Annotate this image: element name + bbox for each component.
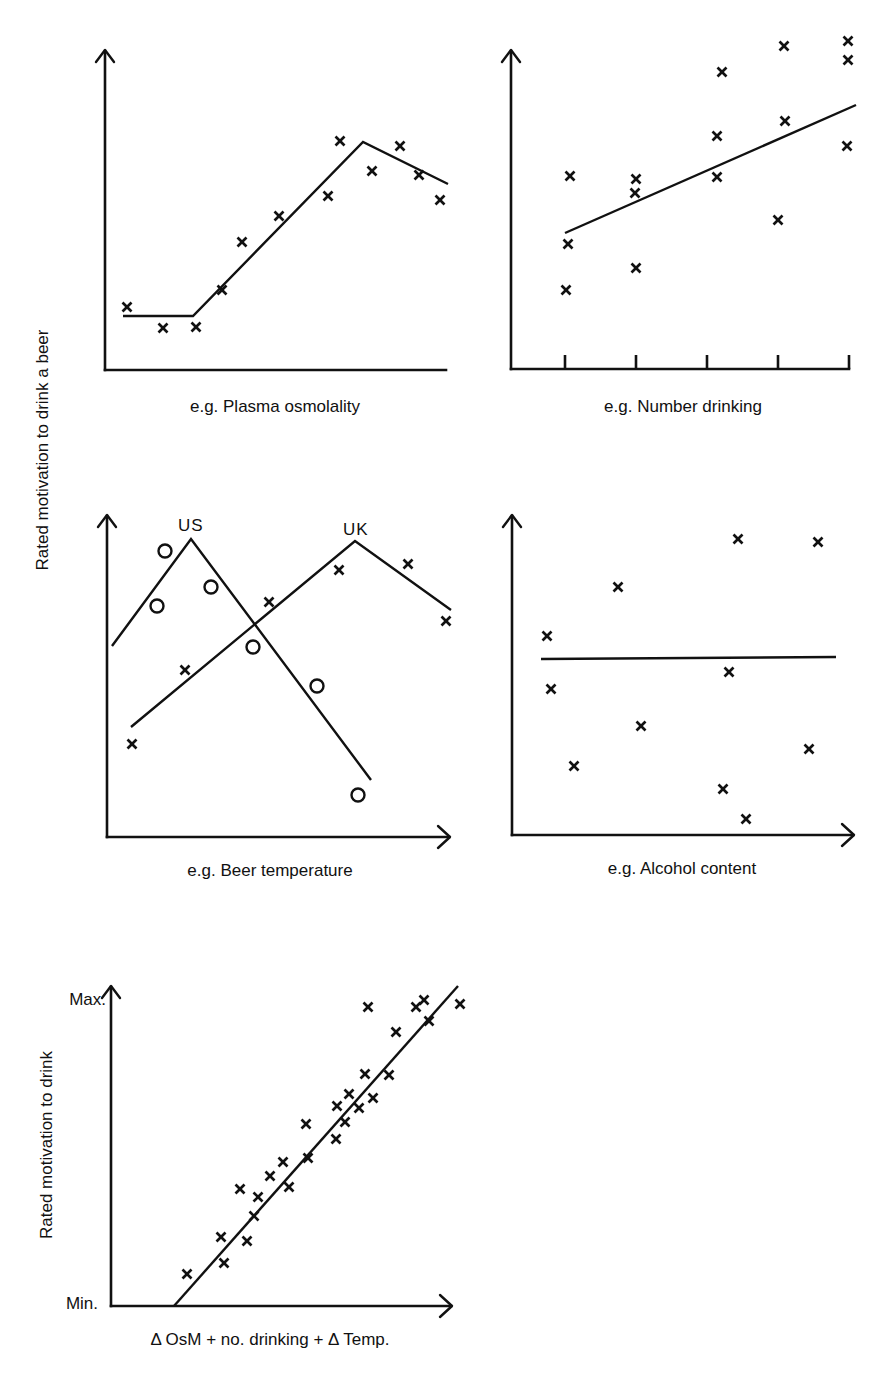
- x-marker-icon: [335, 566, 344, 575]
- x-marker-icon: [279, 1158, 288, 1167]
- x-marker-icon: [566, 172, 575, 181]
- panel-beer-temperature: USUKe.g. Beer temperature: [98, 515, 451, 880]
- x-marker-icon: [442, 617, 451, 626]
- x-marker-icon: [632, 264, 641, 273]
- x-marker-icon: [614, 583, 623, 592]
- x-marker-icon: [324, 192, 333, 201]
- x-marker-icon: [220, 1259, 229, 1268]
- x-marker-icon: [713, 132, 722, 141]
- x-marker-icon: [333, 1102, 342, 1111]
- x-marker-icon: [742, 815, 751, 824]
- x-marker-icon: [632, 175, 641, 184]
- x-marker-icon: [364, 1003, 373, 1012]
- series-label: UK: [343, 520, 369, 539]
- circle-marker-icon: [205, 581, 218, 594]
- x-marker-icon: [217, 1233, 226, 1242]
- x-marker-icon: [719, 785, 728, 794]
- circle-marker-icon: [352, 789, 365, 802]
- x-marker-icon: [192, 323, 201, 332]
- x-marker-icon: [562, 286, 571, 295]
- circle-marker-icon: [247, 641, 260, 654]
- x-marker-icon: [123, 303, 132, 312]
- x-marker-icon: [243, 1237, 252, 1246]
- fit-line: [131, 541, 451, 727]
- x-marker-icon: [404, 560, 413, 569]
- x-marker-icon: [183, 1270, 192, 1279]
- x-marker-icon: [844, 56, 853, 65]
- x-marker-icon: [814, 538, 823, 547]
- y-axis-label: Rated motivation to drink: [37, 1050, 56, 1239]
- x-marker-icon: [254, 1193, 263, 1202]
- x-marker-icon: [718, 68, 727, 77]
- panel-alcohol-content: e.g. Alcohol content: [503, 515, 854, 878]
- x-marker-icon: [456, 1000, 465, 1009]
- y-tick-max: Max.: [69, 990, 106, 1009]
- series-uk: UK: [128, 520, 452, 749]
- x-marker-icon: [368, 167, 377, 176]
- panel-number-drinking: e.g. Number drinking: [502, 37, 856, 417]
- figure-canvas: e.g. Plasma osmolalitye.g. Number drinki…: [0, 0, 891, 1375]
- fit-line: [174, 986, 458, 1306]
- x-marker-icon: [420, 996, 429, 1005]
- x-marker-icon: [805, 745, 814, 754]
- circle-marker-icon: [159, 545, 172, 558]
- x-marker-icon: [369, 1094, 378, 1103]
- x-marker-icon: [336, 137, 345, 146]
- x-marker-icon: [396, 142, 405, 151]
- x-axis-label: e.g. Beer temperature: [187, 861, 352, 880]
- x-marker-icon: [844, 37, 853, 46]
- x-marker-icon: [181, 666, 190, 675]
- x-marker-icon: [570, 762, 579, 771]
- shared-y-axis-label: Rated motivation to drink a beer: [33, 329, 52, 570]
- x-marker-icon: [436, 196, 445, 205]
- fit-line: [565, 105, 856, 233]
- x-marker-icon: [285, 1183, 294, 1192]
- x-marker-icon: [265, 598, 274, 607]
- x-axis-label: Δ OsM + no. drinking + Δ Temp.: [150, 1330, 389, 1349]
- x-marker-icon: [128, 740, 137, 749]
- x-marker-icon: [250, 1212, 259, 1221]
- x-marker-icon: [385, 1071, 394, 1080]
- x-axis-label: e.g. Number drinking: [604, 397, 762, 416]
- y-tick-min: Min.: [66, 1294, 98, 1313]
- x-marker-icon: [637, 722, 646, 731]
- circle-marker-icon: [151, 600, 164, 613]
- x-marker-icon: [355, 1104, 364, 1113]
- series-label: US: [178, 516, 204, 535]
- x-marker-icon: [345, 1090, 354, 1099]
- x-marker-icon: [843, 142, 852, 151]
- x-marker-icon: [266, 1172, 275, 1181]
- x-marker-icon: [547, 685, 556, 694]
- panel-osmolality: e.g. Plasma osmolality: [96, 50, 448, 416]
- x-marker-icon: [781, 117, 790, 126]
- x-marker-icon: [415, 171, 424, 180]
- circle-marker-icon: [311, 680, 324, 693]
- x-marker-icon: [159, 324, 168, 333]
- x-marker-icon: [564, 240, 573, 249]
- x-marker-icon: [543, 632, 552, 641]
- x-axis-label: e.g. Plasma osmolality: [190, 397, 361, 416]
- panel-combined: Δ OsM + no. drinking + Δ Temp.Rated moti…: [37, 986, 465, 1349]
- x-marker-icon: [631, 189, 640, 198]
- fit-line: [541, 657, 836, 659]
- x-axis-label: e.g. Alcohol content: [608, 859, 757, 878]
- x-marker-icon: [275, 212, 284, 221]
- fit-line: [112, 539, 371, 780]
- x-marker-icon: [341, 1118, 350, 1127]
- x-marker-icon: [774, 216, 783, 225]
- x-marker-icon: [302, 1120, 311, 1129]
- x-marker-icon: [361, 1070, 370, 1079]
- x-marker-icon: [392, 1028, 401, 1037]
- x-marker-icon: [734, 535, 743, 544]
- x-marker-icon: [725, 668, 734, 677]
- x-marker-icon: [332, 1135, 341, 1144]
- x-marker-icon: [780, 42, 789, 51]
- x-marker-icon: [713, 173, 722, 182]
- x-marker-icon: [238, 238, 247, 247]
- fit-line: [123, 142, 448, 316]
- x-marker-icon: [236, 1185, 245, 1194]
